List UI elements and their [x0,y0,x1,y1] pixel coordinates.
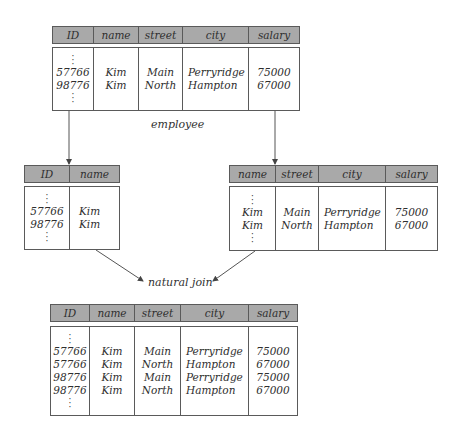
right-projection-body: ··· Kim Kim ··· Main North Perryridge Ha… [229,186,438,251]
cell: Perryridge [186,345,243,358]
cell: 75000 [257,66,290,79]
cell: Kim [101,384,122,397]
employee-table: ID name street city salary ··· 57766 987… [52,26,300,111]
cell: Hampton [186,358,235,371]
column-name: Kim Kim Kim Kim [90,327,135,415]
ellipsis-icon: ··· [69,397,72,409]
cell: 75000 [256,345,289,358]
right-projection-table: name street city salary ··· Kim Kim ··· … [229,165,438,251]
header-city: city [181,305,249,321]
employee-label: employee [151,118,204,131]
cell: North [142,358,174,371]
cell: Hampton [324,219,373,232]
cell: North [142,384,174,397]
header-street: street [276,166,319,182]
employee-table-header: ID name street city salary [52,26,300,44]
header-salary: salary [249,305,297,321]
ellipsis-icon: ··· [72,92,75,104]
column-id: ··· 57766 98776 ··· [25,187,70,249]
cell: Perryridge [188,66,245,79]
cell: 75000 [256,371,289,384]
column-name: Kim Kim [94,48,139,110]
column-salary: 75000 67000 [386,187,437,250]
natural-join-label: natural join [148,276,213,289]
ellipsis-icon: ··· [46,193,49,205]
cell: 57766 [53,358,86,371]
join-result-header: ID name street city salary [50,304,298,322]
ellipsis-icon: ··· [46,231,49,243]
column-street: Main North [139,48,183,110]
cell: Kim [101,345,122,358]
cell: Main [283,206,310,219]
cell: Kim [101,371,122,384]
cell: Kim [79,205,100,218]
cell: Hampton [188,79,237,92]
header-name: name [230,166,276,182]
column-name: Kim Kim [70,187,119,249]
header-id: ID [53,27,94,43]
cell: Perryridge [186,371,243,384]
ellipsis-icon: ··· [251,232,254,244]
cell: 57766 [53,345,86,358]
header-id: ID [51,305,90,321]
column-salary: 75000 67000 75000 67000 [249,327,297,415]
employee-table-body: ··· 57766 98776 ··· Kim Kim Main North P… [52,47,300,111]
header-salary: salary [386,166,437,182]
header-id: ID [25,166,70,182]
column-city: Perryridge Hampton [319,187,386,250]
cell: Kim [101,358,122,371]
cell: Kim [79,218,100,231]
cell: 67000 [257,79,290,92]
header-salary: salary [249,27,299,43]
cell: Kim [242,206,263,219]
cell: 67000 [256,384,289,397]
cell: Main [147,66,174,79]
header-street: street [139,27,183,43]
column-salary: 75000 67000 [249,48,299,110]
cell: 67000 [395,219,428,232]
column-street: Main North [276,187,319,250]
cell: North [145,79,177,92]
cell: 57766 [30,205,63,218]
join-result-table: ID name street city salary ··· 57766 577… [50,304,298,416]
cell: Hampton [186,384,235,397]
left-projection-table: ID name ··· 57766 98776 ··· Kim Kim [24,165,120,250]
cell: North [281,219,313,232]
column-id: ··· 57766 57766 98776 98776 ··· [51,327,90,415]
column-name: ··· Kim Kim ··· [230,187,276,250]
cell: Kim [105,66,126,79]
column-city: Perryridge Hampton Perryridge Hampton [181,327,249,415]
header-city: city [183,27,249,43]
column-id: ··· 57766 98776 ··· [53,48,94,110]
header-street: street [135,305,181,321]
ellipsis-icon: ··· [251,194,254,206]
ellipsis-icon: ··· [72,54,75,66]
join-result-body: ··· 57766 57766 98776 98776 ··· Kim Kim … [50,326,298,416]
header-name: name [94,27,139,43]
column-street: Main North Main North [135,327,181,415]
cell: 98776 [53,371,86,384]
header-name: name [90,305,135,321]
ellipsis-icon: ··· [69,333,72,345]
column-city: Perryridge Hampton [183,48,249,110]
left-projection-header: ID name [24,165,120,183]
right-projection-header: name street city salary [229,165,438,183]
cell: 67000 [256,358,289,371]
cell: Perryridge [324,206,381,219]
cell: Main [144,345,171,358]
cell: 75000 [395,206,428,219]
header-name: name [70,166,119,182]
left-projection-body: ··· 57766 98776 ··· Kim Kim [24,186,120,250]
cell: 57766 [56,66,89,79]
cell: Kim [105,79,126,92]
header-city: city [319,166,386,182]
cell: Main [144,371,171,384]
